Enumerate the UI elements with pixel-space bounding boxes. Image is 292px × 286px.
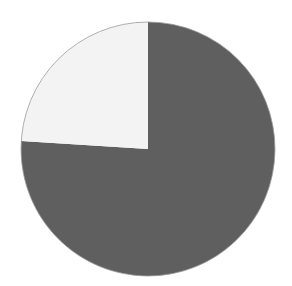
pie-slice-light [21, 22, 148, 149]
pie-chart [0, 0, 292, 286]
pie-slices [21, 22, 275, 276]
